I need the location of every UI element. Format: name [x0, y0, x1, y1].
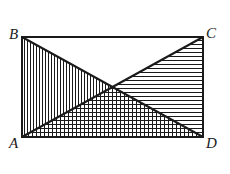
geometry-figure: B C A D [0, 0, 230, 174]
vertex-label-B: B [9, 27, 18, 42]
vertex-label-C: C [206, 26, 216, 41]
rectangle-diagonals-diagram [0, 0, 230, 174]
vertex-label-D: D [206, 136, 217, 151]
vertex-label-A: A [9, 136, 18, 151]
